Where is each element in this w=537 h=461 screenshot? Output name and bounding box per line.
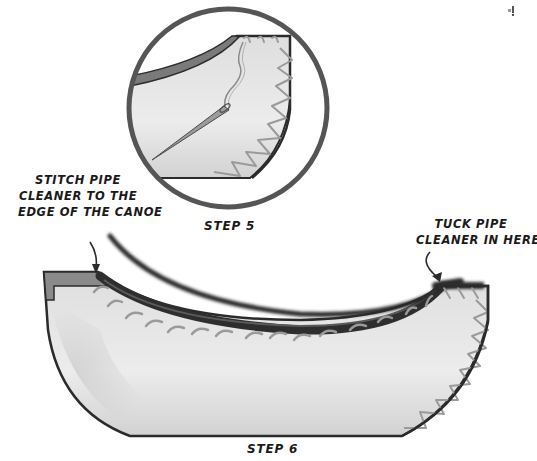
step5-caption: STEP 5 [204, 219, 255, 233]
arrow-right-note [426, 252, 436, 276]
left-annotation-line-2: CLEANER TO THE [18, 188, 138, 204]
right-annotation-line-2: CLEANER IN HERE [416, 232, 526, 248]
right-annotation-line-1: TUCK PIPE [416, 216, 526, 232]
left-annotation-line-3: EDGE OF THE CANOE [18, 204, 138, 220]
right-annotation: TUCK PIPE CLEANER IN HERE [416, 216, 526, 248]
left-annotation-line-1: STITCH PIPE [18, 172, 138, 188]
corner-mark-icon [508, 6, 516, 16]
left-annotation: STITCH PIPE CLEANER TO THE EDGE OF THE C… [18, 172, 138, 220]
step6-canoe [44, 236, 488, 436]
step5-closeup [120, 9, 327, 207]
step6-caption: STEP 6 [247, 442, 298, 456]
